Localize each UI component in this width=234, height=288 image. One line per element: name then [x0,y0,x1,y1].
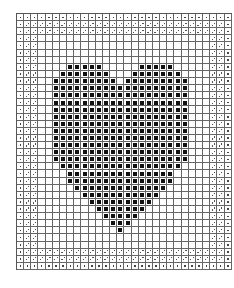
border-diagonal-cell [153,256,160,263]
border-dot-cell [174,263,181,270]
heart-filled-cell [146,199,153,206]
empty-cell [196,192,203,199]
border-dot-cell [203,263,210,270]
heart-filled-cell [96,185,103,192]
heart-filled-cell [53,92,60,99]
heart-filled-cell [139,142,146,149]
empty-cell [182,50,189,57]
border-diagonal-cell [74,21,81,28]
empty-cell [46,220,53,227]
heart-filled-cell [103,163,110,170]
heart-filled-cell [96,78,103,85]
heart-filled-cell [132,78,139,85]
border-diagonal-cell [210,192,217,199]
empty-cell [196,163,203,170]
heart-filled-cell [153,114,160,121]
border-diagonal-cell [210,99,217,106]
empty-cell [146,206,153,213]
border-diagonal-cell [24,78,31,85]
border-dot-cell [74,263,81,270]
heart-filled-cell [53,142,60,149]
heart-filled-cell [60,99,67,106]
border-diagonal-cell [103,256,110,263]
empty-cell [67,192,74,199]
empty-cell [160,199,167,206]
border-dot-cell [225,135,232,142]
heart-filled-cell [139,121,146,128]
empty-cell [103,42,110,49]
empty-cell [96,227,103,234]
border-dot-cell [225,106,232,113]
empty-cell [124,234,131,241]
border-dot-cell [17,199,24,206]
border-diagonal-cell [217,71,224,78]
empty-cell [89,242,96,249]
border-diagonal-cell [146,28,153,35]
border-diagonal-cell [24,64,31,71]
empty-cell [110,35,117,42]
empty-cell [74,50,81,57]
empty-cell [38,57,45,64]
heart-filled-cell [146,178,153,185]
empty-cell [153,206,160,213]
empty-cell [96,220,103,227]
empty-cell [60,170,67,177]
border-diagonal-cell [46,21,53,28]
border-diagonal-cell [217,35,224,42]
heart-filled-cell [174,142,181,149]
border-diagonal-cell [60,28,67,35]
border-diagonal-cell [160,249,167,256]
heart-filled-cell [146,128,153,135]
empty-cell [96,42,103,49]
border-diagonal-cell [217,249,224,256]
border-dot-cell [117,263,124,270]
empty-cell [189,213,196,220]
border-dot-cell [225,185,232,192]
empty-cell [53,57,60,64]
border-dot-cell [67,263,74,270]
heart-filled-cell [60,106,67,113]
empty-cell [117,64,124,71]
heart-filled-cell [139,99,146,106]
empty-cell [203,199,210,206]
border-diagonal-cell [46,249,53,256]
heart-filled-cell [167,163,174,170]
border-diagonal-cell [210,28,217,35]
heart-filled-cell [117,149,124,156]
border-diagonal-cell [24,21,31,28]
empty-cell [174,185,181,192]
border-diagonal-cell [31,192,38,199]
empty-cell [38,106,45,113]
empty-cell [67,227,74,234]
empty-cell [160,220,167,227]
border-diagonal-cell [210,106,217,113]
empty-cell [89,227,96,234]
empty-cell [60,220,67,227]
empty-cell [60,242,67,249]
heart-filled-cell [89,71,96,78]
empty-cell [38,85,45,92]
heart-filled-cell [53,78,60,85]
heart-filled-cell [124,213,131,220]
border-diagonal-cell [146,21,153,28]
empty-cell [167,206,174,213]
border-diagonal-cell [24,256,31,263]
empty-cell [46,142,53,149]
empty-cell [60,64,67,71]
heart-filled-cell [167,85,174,92]
border-diagonal-cell [217,121,224,128]
border-diagonal-cell [210,170,217,177]
border-diagonal-cell [210,71,217,78]
border-diagonal-cell [182,249,189,256]
heart-filled-cell [153,92,160,99]
border-dot-cell [139,263,146,270]
empty-cell [182,57,189,64]
border-diagonal-cell [217,178,224,185]
empty-cell [182,234,189,241]
border-diagonal-cell [67,249,74,256]
border-diagonal-cell [31,213,38,220]
empty-cell [189,121,196,128]
empty-cell [81,234,88,241]
heart-filled-cell [74,99,81,106]
empty-cell [167,213,174,220]
